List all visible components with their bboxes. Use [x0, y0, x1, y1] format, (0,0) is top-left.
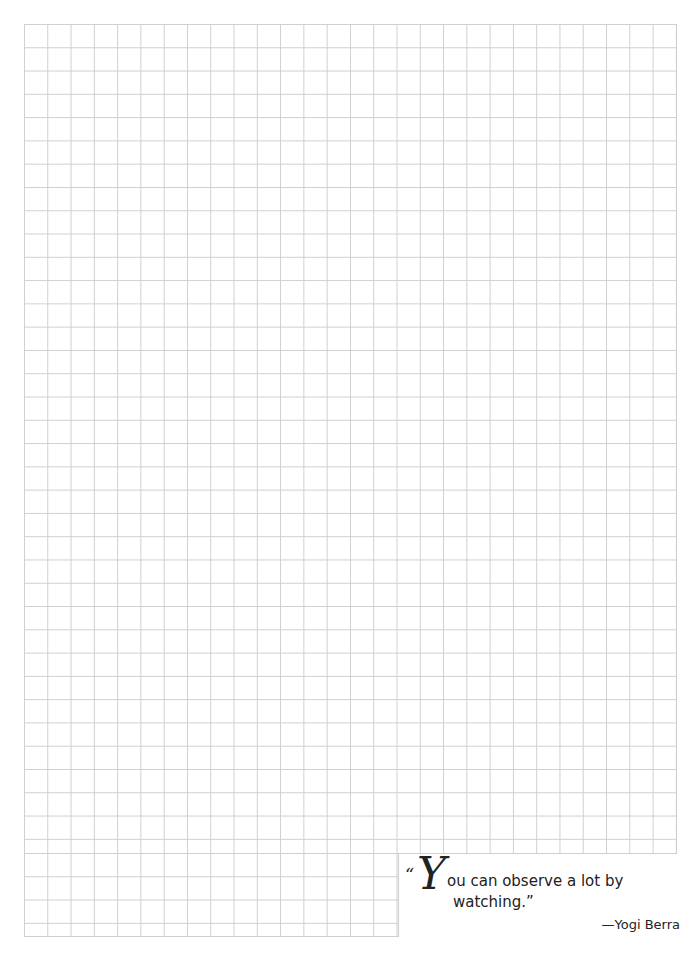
graph-paper-grid-lower-left [24, 853, 399, 937]
quote-attribution: —Yogi Berra [601, 917, 680, 932]
quote-initial: Y [417, 852, 446, 896]
quote-line-2: watching.” [453, 893, 534, 911]
quote-line-1: ou can observe a lot by [447, 872, 623, 890]
open-quote-mark: “ [405, 864, 414, 885]
graph-paper-grid [24, 24, 677, 854]
